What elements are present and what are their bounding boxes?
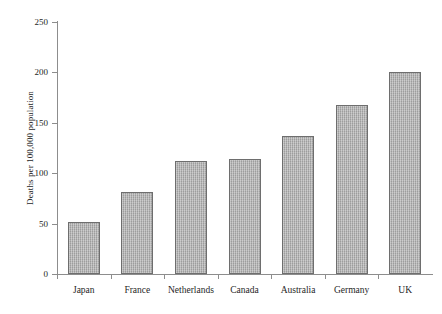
- x-label-japan: Japan: [57, 285, 111, 296]
- x-tick-4: [271, 275, 272, 279]
- y-tick-label-100: 100: [8, 169, 48, 178]
- y-tick-label-0: 0: [8, 270, 48, 279]
- x-label-uk: UK: [378, 285, 432, 296]
- x-axis-line: [57, 274, 433, 275]
- x-tick-5: [325, 275, 326, 279]
- bar-netherlands: [175, 161, 207, 274]
- bar-japan: [68, 222, 100, 274]
- x-label-france: France: [111, 285, 165, 296]
- x-label-australia: Australia: [271, 285, 325, 296]
- y-axis-title: Deaths per 100,000 population: [22, 22, 38, 274]
- x-tick-3: [218, 275, 219, 279]
- x-tick-2: [164, 275, 165, 279]
- x-label-canada: Canada: [218, 285, 272, 296]
- bar-australia: [282, 136, 314, 274]
- y-tick-label-50: 50: [8, 220, 48, 229]
- x-tick-0: [57, 275, 58, 279]
- bar-uk: [389, 72, 421, 274]
- bar-france: [121, 192, 153, 274]
- bar-germany: [336, 105, 368, 274]
- y-tick-label-150: 150: [8, 119, 48, 128]
- bar-canada: [229, 159, 261, 274]
- y-tick-label-200: 200: [8, 68, 48, 77]
- x-tick-1: [111, 275, 112, 279]
- plot-area: [57, 22, 432, 274]
- y-tick-label-250: 250: [8, 18, 48, 27]
- x-tick-6: [378, 275, 379, 279]
- bar-chart: Deaths per 100,000 population JapanFranc…: [0, 0, 442, 314]
- x-label-netherlands: Netherlands: [164, 285, 218, 296]
- x-label-germany: Germany: [325, 285, 379, 296]
